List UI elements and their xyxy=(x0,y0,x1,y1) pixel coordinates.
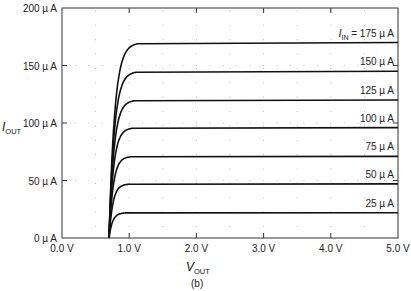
y-axis-title: IOUT xyxy=(2,120,22,136)
y-tick-label: 200 µ A xyxy=(23,3,57,14)
y-tick-label: 150 µ A xyxy=(23,61,57,72)
x-tick-label: 0.0 V xyxy=(50,243,74,254)
x-tick-label: 5.0 V xyxy=(386,243,410,254)
curve-label: 150 µ A xyxy=(360,56,394,67)
curves xyxy=(109,43,398,239)
curve-label: 75 µ A xyxy=(365,141,394,152)
y-tick-label: 100 µ A xyxy=(23,118,57,129)
iv-chart: 0.0 V1.0 V2.0 V3.0 V4.0 V5.0 V0 µ A50 µ … xyxy=(0,0,411,291)
curve-label: IIN = 175 µ A xyxy=(338,27,394,41)
y-tick-label: 50 µ A xyxy=(28,176,57,187)
curve-75ua xyxy=(109,156,398,238)
caption: (b) xyxy=(191,278,203,289)
y-tick-label: 0 µ A xyxy=(34,233,57,244)
curve-label: 50 µ A xyxy=(365,169,394,180)
curve-label: 125 µ A xyxy=(360,85,394,96)
curve-label: 100 µ A xyxy=(360,113,394,124)
curve-125ua xyxy=(109,100,398,238)
x-axis-title: VOUT xyxy=(186,260,210,276)
curve-100ua xyxy=(109,128,398,238)
x-tick-label: 2.0 V xyxy=(185,243,209,254)
x-tick-label: 3.0 V xyxy=(252,243,276,254)
curve-25ua xyxy=(109,213,398,238)
curve-labels: IIN = 175 µ A150 µ A125 µ A100 µ A75 µ A… xyxy=(338,27,394,209)
x-tick-label: 4.0 V xyxy=(319,243,343,254)
x-tick-label: 1.0 V xyxy=(118,243,142,254)
curve-label: 25 µ A xyxy=(365,198,394,209)
curve-50ua xyxy=(109,184,398,238)
